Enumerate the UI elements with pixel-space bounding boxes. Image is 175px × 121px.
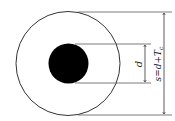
outer-dimension-label-subscript: c bbox=[157, 46, 164, 50]
svg-text:s=d+Tc: s=d+Tc bbox=[153, 46, 164, 81]
diagram-canvas: d s=d+Tc bbox=[0, 0, 175, 121]
outer-dimension-label-main: s=d+T bbox=[153, 49, 163, 81]
inner-core-circle bbox=[49, 44, 89, 84]
inner-dimension-label: d bbox=[133, 61, 144, 67]
outer-dimension-label: s=d+Tc bbox=[153, 46, 164, 81]
